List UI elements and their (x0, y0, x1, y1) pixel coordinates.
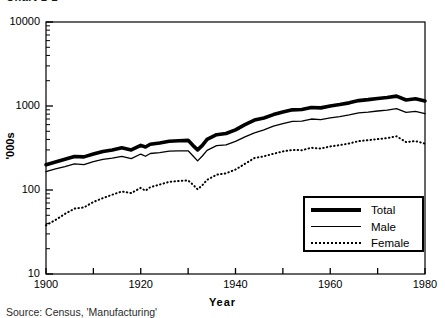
x-tick-label: 1900 (23, 278, 69, 290)
legend-swatch-male-icon (311, 221, 361, 233)
x-tick-label: 1980 (402, 278, 445, 290)
source-note: Source: Census, 'Manufacturing' (6, 306, 157, 318)
legend-item-female: Female (305, 234, 422, 251)
legend-label-female: Female (371, 237, 409, 249)
legend-item-total: Total (305, 201, 422, 218)
y-tick-label: 1000 (0, 99, 40, 111)
legend-label-total: Total (371, 204, 395, 216)
x-tick-label: 1960 (307, 278, 353, 290)
x-tick-label: 1940 (213, 278, 259, 290)
legend-swatch-total-icon (311, 204, 361, 216)
y-tick-label: 100 (0, 183, 40, 195)
legend: Total Male Female (303, 196, 424, 252)
legend-item-male: Male (305, 218, 422, 235)
legend-label-male: Male (371, 221, 396, 233)
y-tick-label: 10000 (0, 15, 40, 27)
legend-swatch-female-icon (311, 237, 361, 249)
x-tick-label: 1920 (118, 278, 164, 290)
series-line-total (46, 96, 425, 165)
